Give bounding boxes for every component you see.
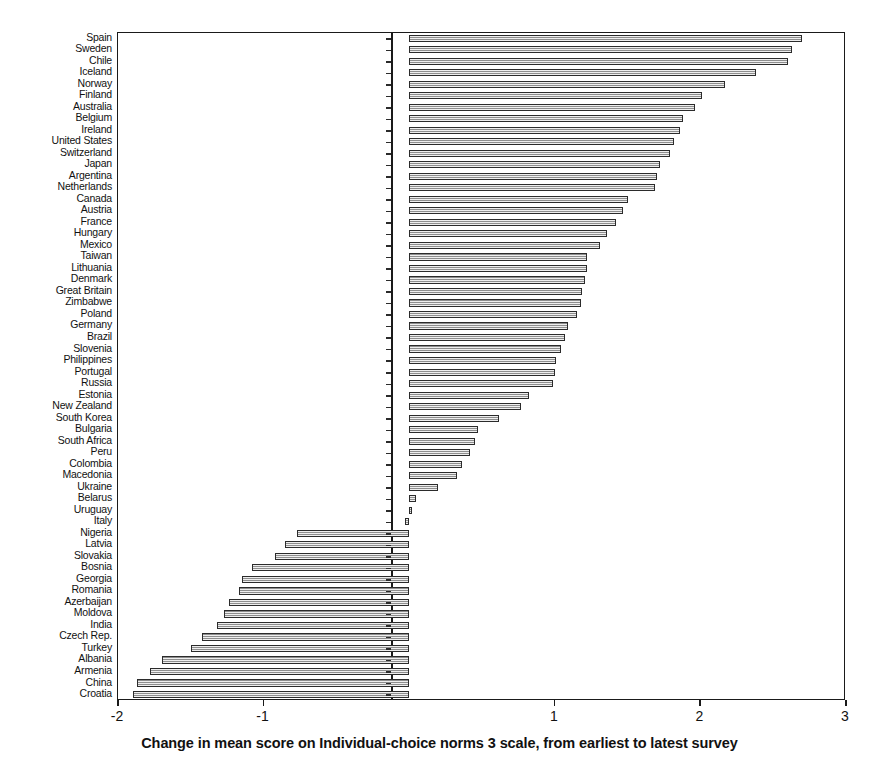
x-axis-title: Change in mean score on Individual-choic…: [0, 735, 879, 751]
bar-row: [118, 390, 844, 402]
bar-italy[interactable]: [405, 518, 409, 525]
bar-united-states[interactable]: [409, 138, 674, 145]
x-tick: [554, 700, 556, 706]
bar-denmark[interactable]: [409, 276, 585, 283]
bar-nigeria[interactable]: [297, 530, 409, 537]
bar-turkey[interactable]: [191, 645, 409, 652]
bar-mexico[interactable]: [409, 242, 600, 249]
bar-ukraine[interactable]: [409, 484, 438, 491]
category-tick: [386, 694, 391, 696]
bar-south-africa[interactable]: [409, 438, 475, 445]
bar-moldova[interactable]: [224, 610, 409, 617]
category-label: Macedonia: [0, 469, 112, 480]
category-tick: [386, 395, 391, 397]
chart-page: SpainSwedenChileIcelandNorwayFinlandAust…: [0, 0, 879, 775]
bar-south-korea[interactable]: [409, 415, 499, 422]
category-tick: [386, 545, 391, 547]
bar-belarus[interactable]: [409, 495, 416, 502]
x-tick-label: 2: [695, 708, 703, 724]
bar-portugal[interactable]: [409, 369, 555, 376]
bar-ireland[interactable]: [409, 127, 680, 134]
bar-chile[interactable]: [409, 58, 788, 65]
value-axis: -2-1123: [117, 700, 845, 701]
bar-switzerland[interactable]: [409, 150, 670, 157]
bar-netherlands[interactable]: [409, 184, 655, 191]
bar-russia[interactable]: [409, 380, 553, 387]
category-tick: [386, 84, 391, 86]
bar-spain[interactable]: [409, 35, 802, 42]
bar-peru[interactable]: [409, 449, 470, 456]
category-tick: [386, 130, 391, 132]
bar-poland[interactable]: [409, 311, 576, 318]
bar-argentina[interactable]: [409, 173, 657, 180]
category-tick: [386, 430, 391, 432]
category-label: New Zealand: [0, 400, 112, 411]
bar-albania[interactable]: [162, 656, 410, 663]
bar-estonia[interactable]: [409, 392, 528, 399]
bar-row: [118, 505, 844, 517]
bar-armenia[interactable]: [150, 668, 409, 675]
bar-row: [118, 436, 844, 448]
bar-row: [118, 678, 844, 690]
bar-sweden[interactable]: [409, 46, 792, 53]
category-label: Japan: [0, 158, 112, 169]
bar-brazil[interactable]: [409, 334, 565, 341]
category-tick: [386, 671, 391, 673]
bar-row: [118, 252, 844, 264]
bar-taiwan[interactable]: [409, 253, 587, 260]
bar-row: [118, 194, 844, 206]
bar-row: [118, 137, 844, 149]
bar-new-zealand[interactable]: [409, 403, 521, 410]
bar-row: [118, 355, 844, 367]
bar-india[interactable]: [217, 622, 409, 629]
bar-norway[interactable]: [409, 81, 725, 88]
category-tick: [386, 326, 391, 328]
bar-great-britain[interactable]: [409, 288, 582, 295]
bar-slovenia[interactable]: [409, 345, 560, 352]
category-tick: [386, 464, 391, 466]
x-tick: [699, 700, 701, 706]
bar-colombia[interactable]: [409, 461, 461, 468]
category-tick: [386, 61, 391, 63]
category-tick: [386, 107, 391, 109]
category-label: Russia: [0, 377, 112, 388]
bar-lithuania[interactable]: [409, 265, 587, 272]
category-tick: [386, 579, 391, 581]
bar-row: [118, 574, 844, 586]
bar-japan[interactable]: [409, 161, 659, 168]
bar-row: [118, 597, 844, 609]
bar-georgia[interactable]: [242, 576, 409, 583]
bar-croatia[interactable]: [133, 691, 410, 698]
category-tick: [386, 510, 391, 512]
bar-czech-rep[interactable]: [202, 633, 409, 640]
bar-australia[interactable]: [409, 104, 694, 111]
category-tick: [386, 188, 391, 190]
bar-iceland[interactable]: [409, 69, 756, 76]
category-axis-labels: SpainSwedenChileIcelandNorwayFinlandAust…: [0, 32, 112, 700]
category-tick: [386, 418, 391, 420]
category-tick: [386, 50, 391, 52]
bar-canada[interactable]: [409, 196, 627, 203]
category-tick: [386, 38, 391, 40]
bar-austria[interactable]: [409, 207, 623, 214]
x-tick: [117, 700, 119, 706]
category-tick: [386, 245, 391, 247]
category-tick: [386, 384, 391, 386]
bar-philippines[interactable]: [409, 357, 556, 364]
bar-finland[interactable]: [409, 92, 702, 99]
bar-bulgaria[interactable]: [409, 426, 477, 433]
category-label: Finland: [0, 89, 112, 100]
bar-zimbabwe[interactable]: [409, 299, 581, 306]
bar-germany[interactable]: [409, 322, 568, 329]
bar-china[interactable]: [137, 679, 409, 686]
bar-belgium[interactable]: [409, 115, 683, 122]
bar-row: [118, 448, 844, 460]
bar-row: [118, 332, 844, 344]
bar-macedonia[interactable]: [409, 472, 457, 479]
bar-uruguay[interactable]: [409, 507, 412, 514]
bar-hungary[interactable]: [409, 230, 607, 237]
bar-azerbaijan[interactable]: [229, 599, 410, 606]
bar-france[interactable]: [409, 219, 616, 226]
x-tick-label: -1: [256, 708, 268, 724]
bar-romania[interactable]: [239, 587, 409, 594]
